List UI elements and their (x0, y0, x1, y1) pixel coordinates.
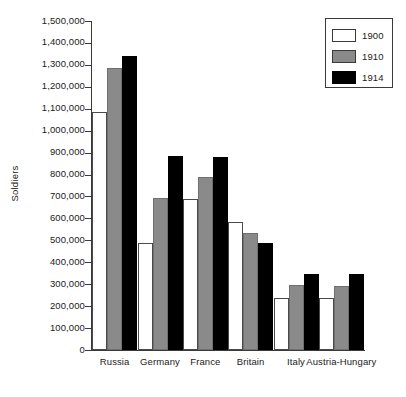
bar (138, 243, 153, 350)
legend-item: 1900 (332, 25, 392, 45)
bar (198, 177, 213, 350)
x-axis-line (91, 350, 365, 351)
bar-group (228, 21, 273, 350)
legend-item: 1910 (332, 46, 392, 66)
bar-group (138, 21, 183, 350)
legend-item: 1914 (332, 67, 392, 87)
bar (213, 157, 228, 350)
bar (304, 274, 319, 350)
bar (258, 243, 273, 350)
bar (153, 198, 168, 350)
bar (107, 68, 122, 350)
legend-label: 1914 (362, 72, 384, 83)
bar-group (92, 21, 137, 350)
y-axis-tick-label: 200,000 (50, 300, 85, 311)
y-axis-title: Soldiers (9, 149, 20, 219)
bar-group (274, 21, 319, 350)
bar (228, 222, 243, 350)
bar (274, 298, 289, 350)
legend-swatch-1900-icon (332, 29, 356, 42)
y-axis-tick-label: 800,000 (50, 168, 85, 179)
y-axis-tick-label: 100,000 (50, 322, 85, 333)
bar (349, 274, 364, 350)
bar (168, 156, 183, 350)
bar (183, 199, 198, 350)
plot-area (92, 21, 364, 350)
bar (334, 286, 349, 350)
bar (289, 285, 304, 350)
y-axis-tick-label: 500,000 (50, 234, 85, 245)
legend-swatch-1914-icon (332, 71, 356, 84)
y-axis-tick-label: 900,000 (50, 146, 85, 157)
bar (243, 233, 258, 350)
y-axis-tick-label: 1,000,000 (42, 124, 85, 135)
legend: 1900 1910 1914 (325, 18, 393, 88)
legend-label: 1910 (362, 51, 384, 62)
bar-chart: Soldiers 1,500,0001,400,0001,300,0001,20… (0, 0, 406, 397)
x-axis-category-label: Austria-​Hungary (298, 356, 384, 368)
y-axis-tick-label: 600,000 (50, 212, 85, 223)
y-axis-tick-label: 1,500,000 (42, 15, 85, 26)
bar (92, 112, 107, 350)
y-axis-tick-label: 1,300,000 (42, 58, 85, 69)
y-axis-tick-label: 700,000 (50, 190, 85, 201)
legend-label: 1900 (362, 30, 384, 41)
y-axis-tick-label: 300,000 (50, 278, 85, 289)
legend-swatch-1910-icon (332, 50, 356, 63)
bar (319, 298, 334, 350)
y-axis-tick-label: 400,000 (50, 256, 85, 267)
bar-group (183, 21, 228, 350)
y-axis-tick-label: 1,200,000 (42, 80, 85, 91)
y-axis-tick-label: 1,400,000 (42, 36, 85, 47)
y-axis-tick-label: 0 (80, 344, 85, 355)
bar (122, 56, 137, 350)
y-axis-tick-label: 1,100,000 (42, 102, 85, 113)
